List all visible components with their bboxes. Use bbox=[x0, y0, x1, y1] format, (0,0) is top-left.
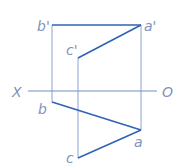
edge-c-prime-a-prime bbox=[78, 25, 141, 58]
label-b: b bbox=[38, 101, 47, 117]
label-a: a bbox=[134, 134, 143, 150]
label-axis-o: O bbox=[162, 84, 173, 100]
label-axis-x: X bbox=[11, 84, 22, 100]
label-a-prime: a' bbox=[144, 18, 156, 34]
edge-c-a bbox=[78, 130, 141, 158]
projection-diagram: b' a' c' X O b a c bbox=[0, 0, 183, 168]
edge-b-a bbox=[52, 102, 141, 130]
label-c-prime: c' bbox=[66, 42, 78, 58]
label-b-prime: b' bbox=[37, 18, 50, 34]
label-c: c bbox=[66, 150, 74, 166]
